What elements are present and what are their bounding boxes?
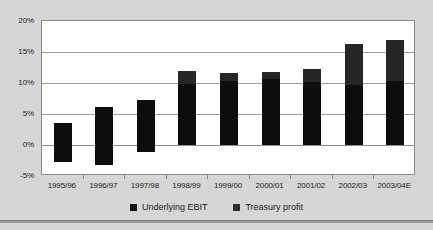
- y-tick-label: -5%: [20, 171, 34, 180]
- x-axis: 1995/961996/971997/981998/991999/002000/…: [41, 181, 415, 195]
- bottom-divider: [0, 220, 433, 223]
- plot-frame: [41, 20, 415, 175]
- x-tick: [207, 175, 208, 179]
- chart-legend: Underlying EBITTreasury profit: [0, 199, 433, 215]
- x-tick-label: 2002/03: [339, 181, 367, 190]
- legend-swatch-icon: [233, 204, 240, 211]
- x-tick: [373, 175, 374, 179]
- bar-group: [262, 21, 280, 174]
- bar-segment-ebit: [220, 81, 238, 145]
- plot-area: [42, 21, 414, 174]
- bar-group: [178, 21, 196, 174]
- bar-group: [220, 21, 238, 174]
- legend-label: Treasury profit: [245, 202, 303, 212]
- y-tick-label: 5%: [23, 109, 34, 118]
- y-tick-label: 15%: [18, 47, 34, 56]
- y-tick-label: 0%: [23, 140, 34, 149]
- bar-segment-ebit: [262, 79, 280, 145]
- bar-segment-treasury: [345, 44, 363, 85]
- bar-segment-ebit: [137, 100, 155, 153]
- x-tick-label: 2000/01: [255, 181, 283, 190]
- x-tick: [124, 175, 125, 179]
- bar-segment-treasury: [262, 72, 280, 79]
- bar-segment-ebit: [178, 84, 196, 145]
- bar-segment-ebit: [386, 81, 404, 145]
- x-tick: [249, 175, 250, 179]
- x-tick-label: 2003/04E: [377, 181, 410, 190]
- x-tick-label: 2001/02: [297, 181, 325, 190]
- x-tick: [166, 175, 167, 179]
- y-tick-label: 10%: [18, 78, 34, 87]
- x-tick: [83, 175, 84, 179]
- legend-swatch-icon: [130, 204, 137, 211]
- legend-item: Underlying EBIT: [130, 202, 208, 212]
- x-tick-label: 1997/98: [131, 181, 159, 190]
- bar-segment-ebit: [54, 123, 72, 161]
- bar-segment-treasury: [386, 40, 404, 81]
- y-tick-label: 20%: [18, 16, 34, 25]
- x-tick-label: 1996/97: [89, 181, 117, 190]
- bar-segment-treasury: [303, 69, 321, 82]
- bar-group: [137, 21, 155, 174]
- bar-segment-ebit: [95, 107, 113, 165]
- x-tick-label: 1999/00: [214, 181, 242, 190]
- x-tick-label: 1995/96: [48, 181, 76, 190]
- bar-segment-ebit: [345, 85, 363, 145]
- bar-group: [303, 21, 321, 174]
- x-axis-ticks: [41, 175, 415, 180]
- x-tick: [290, 175, 291, 179]
- y-axis: 20%15%10%5%0%-5%: [0, 20, 38, 175]
- bar-group: [95, 21, 113, 174]
- x-tick: [332, 175, 333, 179]
- bar-segment-treasury: [178, 71, 196, 85]
- bar-segment-treasury: [220, 73, 238, 81]
- x-tick-label: 1998/99: [172, 181, 200, 190]
- legend-label: Underlying EBIT: [142, 202, 208, 212]
- bar-group: [386, 21, 404, 174]
- legend-item: Treasury profit: [233, 202, 303, 212]
- bar-group: [54, 21, 72, 174]
- chart-figure: 20%15%10%5%0%-5% 1995/961996/971997/9819…: [0, 0, 433, 230]
- bar-group: [345, 21, 363, 174]
- bar-segment-ebit: [303, 82, 321, 145]
